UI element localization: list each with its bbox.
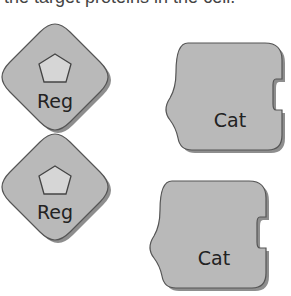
reg-unit-2: Reg — [2, 134, 111, 243]
cat-label-2: Cat — [198, 247, 230, 269]
cat-label-1: Cat — [214, 109, 246, 131]
diagram-canvas: Reg Reg Cat Cat — [0, 0, 291, 296]
cat-unit-1: Cat — [166, 43, 285, 153]
cat-unit-2: Cat — [150, 181, 269, 291]
reg-label-2: Reg — [37, 201, 73, 223]
reg-unit-1: Reg — [2, 24, 111, 133]
reg-label-1: Reg — [37, 90, 73, 112]
